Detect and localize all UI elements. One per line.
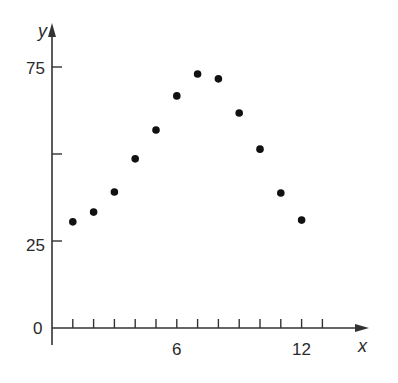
- data-point: [298, 216, 306, 224]
- y-axis-label: y: [36, 21, 48, 41]
- data-point: [90, 208, 98, 216]
- y-tick-label-75: 75: [26, 59, 45, 78]
- scatter-chart: y x 75 25 0 6 12: [0, 0, 398, 383]
- x-tick-label-12: 12: [292, 340, 311, 359]
- data-point: [215, 75, 223, 83]
- data-point: [173, 92, 181, 100]
- origin-label: 0: [33, 319, 42, 338]
- x-axis-label: x: [357, 336, 368, 356]
- x-axis-arrow-icon: [355, 324, 369, 332]
- data-point: [152, 126, 160, 134]
- data-point: [69, 218, 77, 226]
- y-axis-arrow-icon: [48, 23, 56, 37]
- data-point: [256, 145, 264, 153]
- data-point: [131, 155, 139, 163]
- data-point: [111, 188, 119, 196]
- data-point: [194, 70, 202, 78]
- data-point: [235, 109, 243, 117]
- y-tick-label-25: 25: [26, 236, 45, 255]
- data-point: [277, 189, 285, 197]
- axes: [48, 23, 369, 345]
- data-points: [69, 70, 305, 226]
- x-tick-label-6: 6: [172, 340, 181, 359]
